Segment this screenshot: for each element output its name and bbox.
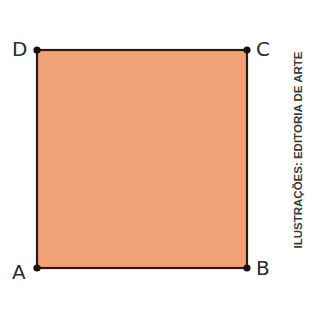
vertex-label-c: C — [256, 39, 270, 59]
vertex-d-dot — [33, 46, 40, 53]
vertex-label-a: A — [12, 262, 26, 282]
square-abcd — [0, 0, 320, 309]
vertex-label-b: B — [256, 258, 270, 278]
vertex-b-dot — [243, 264, 250, 271]
vertex-c-dot — [243, 46, 250, 53]
square-diagram: D C A B ILUSTRAÇÕES: EDITORIA DE ARTE — [0, 0, 320, 309]
square-fill — [37, 50, 247, 268]
vertex-a-dot — [33, 264, 40, 271]
vertex-label-d: D — [12, 39, 27, 59]
illustration-credit: ILUSTRAÇÕES: EDITORIA DE ARTE — [292, 52, 304, 249]
